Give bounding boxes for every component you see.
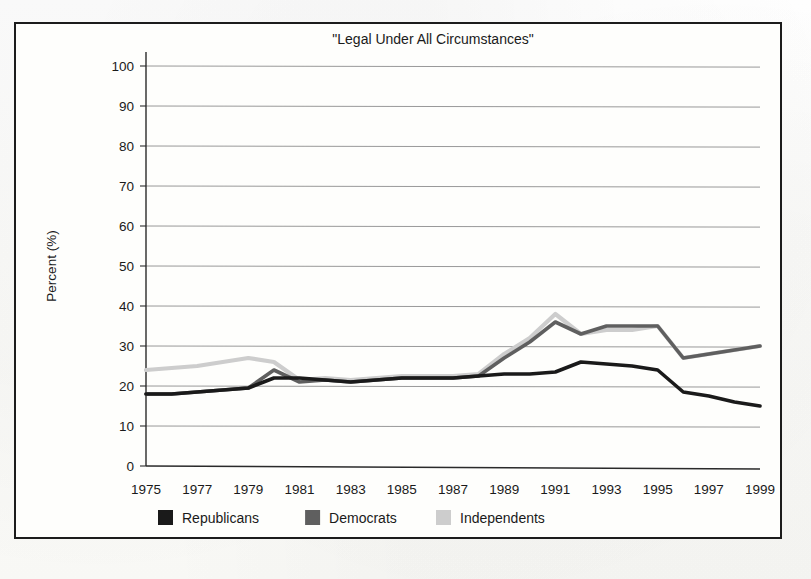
figure-frame: 0102030405060708090100197519771979198119… <box>14 22 782 539</box>
y-tick-label: 100 <box>111 59 134 74</box>
gridline <box>146 186 760 187</box>
x-tick-label: 1999 <box>745 482 775 497</box>
x-tick-label: 1985 <box>387 482 417 497</box>
x-axis-line <box>146 466 760 469</box>
y-tick-label: 60 <box>119 219 134 234</box>
x-tick-label: 1975 <box>131 482 161 497</box>
x-tick-label: 1995 <box>643 482 673 497</box>
x-tick-label: 1983 <box>336 482 366 497</box>
x-tick-label: 1997 <box>694 482 724 497</box>
y-tick-label: 20 <box>119 379 134 394</box>
y-tick-label: 40 <box>119 299 134 314</box>
gridline <box>146 146 760 147</box>
line-chart: 0102030405060708090100197519771979198119… <box>16 24 780 537</box>
x-tick-label: 1989 <box>489 482 519 497</box>
plot-area: 0102030405060708090100197519771979198119… <box>16 24 780 537</box>
legend-swatch <box>436 510 451 525</box>
y-axis-title: Percent (%) <box>44 230 59 301</box>
y-tick-label: 50 <box>119 259 134 274</box>
y-tick-label: 70 <box>119 179 134 194</box>
gridline <box>146 106 760 107</box>
y-tick-label: 30 <box>119 339 134 354</box>
x-tick-label: 1977 <box>182 482 212 497</box>
legend-swatch <box>158 510 173 525</box>
legend-label: Independents <box>460 510 545 526</box>
y-tick-label: 0 <box>126 459 134 474</box>
chart-title: "Legal Under All Circumstances" <box>332 31 533 47</box>
legend-swatch <box>305 510 320 525</box>
x-tick-label: 1993 <box>591 482 621 497</box>
gridline <box>146 266 760 267</box>
x-tick-label: 1987 <box>438 482 468 497</box>
legend-label: Democrats <box>329 510 397 526</box>
gridline <box>146 226 760 227</box>
gridline <box>146 346 760 347</box>
legend-label: Republicans <box>182 510 259 526</box>
y-tick-label: 10 <box>119 419 134 434</box>
gridline <box>146 386 760 387</box>
x-tick-label: 1979 <box>233 482 263 497</box>
gridline <box>146 66 760 67</box>
series-line-republicans <box>146 362 760 406</box>
gridline <box>146 426 760 427</box>
x-tick-label: 1991 <box>540 482 570 497</box>
y-tick-label: 80 <box>119 139 134 154</box>
x-tick-label: 1981 <box>284 482 314 497</box>
gridline <box>146 306 760 307</box>
y-tick-label: 90 <box>119 99 134 114</box>
